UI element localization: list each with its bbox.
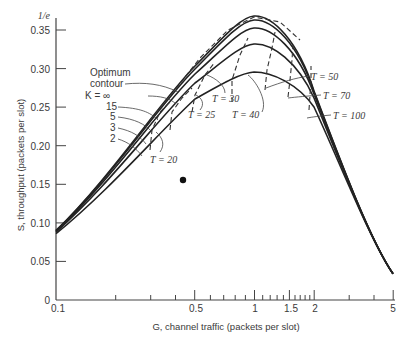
x-axis-title: G, channel traffic (packets per slot) (152, 321, 299, 332)
svg-text:0.1: 0.1 (51, 303, 65, 314)
t25-label: T = 25 (188, 109, 215, 120)
k-labels: Optimum contour K = ∞ 15 5 3 2 (85, 67, 131, 144)
throughput-chart: 0 0.05 0.10 0.15 0.20 0.25 0.30 0.35 1/e (0, 0, 409, 340)
optimum-label-1: Optimum (90, 67, 131, 78)
t30-label: T = 30 (212, 93, 239, 104)
t40-label: T = 40 (232, 109, 259, 120)
x-ticks (116, 290, 394, 300)
k5-label: 5 (110, 111, 116, 122)
contour-t70 (288, 45, 293, 97)
x-tick-labels: 0.1 0.5 1 1.5 2 5 (51, 303, 396, 314)
svg-text:0.5: 0.5 (189, 303, 203, 314)
curve-k-15 (56, 20, 393, 274)
inverse-e-label: 1/e (38, 10, 51, 21)
t70-label: T = 70 (323, 90, 350, 101)
contour-optimum (150, 17, 300, 120)
svg-text:0.05: 0.05 (31, 256, 51, 267)
svg-text:1.5: 1.5 (284, 303, 298, 314)
curve-k-infinity (56, 16, 393, 274)
optimum-label-2: contour (90, 78, 124, 89)
t50-label: T = 50 (311, 71, 338, 82)
svg-text:0.20: 0.20 (31, 141, 51, 152)
svg-text:1: 1 (252, 303, 258, 314)
stray-dot (180, 177, 186, 183)
t20-label: T = 20 (150, 154, 177, 165)
curve-k-5 (56, 28, 393, 274)
axes (56, 18, 395, 300)
k3-label: 3 (110, 122, 116, 133)
k-infinity-label: K = ∞ (85, 90, 110, 101)
y-axis-title: S, throughput (packets per slot) (15, 99, 26, 232)
throughput-curves (56, 16, 393, 274)
contour-t50 (265, 32, 275, 90)
svg-text:0.10: 0.10 (31, 218, 51, 229)
y-tick-labels: 0 0.05 0.10 0.15 0.20 0.25 0.30 0.35 1/e (31, 10, 51, 306)
svg-text:0.30: 0.30 (31, 64, 51, 75)
svg-text:0.35: 0.35 (31, 25, 51, 36)
svg-text:0.15: 0.15 (31, 179, 51, 190)
k2-label: 2 (110, 133, 116, 144)
t100-label: T = 100 (333, 110, 365, 121)
svg-text:5: 5 (390, 303, 396, 314)
svg-text:2: 2 (312, 303, 318, 314)
svg-text:0.25: 0.25 (31, 102, 51, 113)
svg-text:0: 0 (44, 295, 50, 306)
